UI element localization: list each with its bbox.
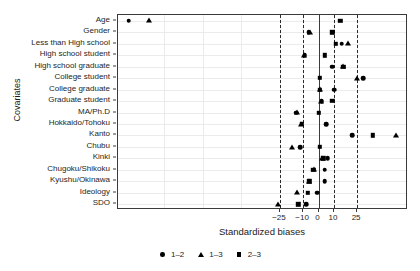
y-axis-tick-mark [113, 191, 116, 192]
legend: 1–21–32–3 [0, 250, 420, 259]
data-point-square [311, 168, 315, 172]
legend-item: 1–2 [159, 250, 184, 259]
data-point-triangle [307, 29, 313, 34]
legend-item: 2–3 [236, 250, 261, 259]
square-glyph [237, 252, 241, 256]
x-axis-tick-label: 25 [352, 213, 361, 222]
standardized-biases-chart: Covariates AgeGenderLess than High schoo… [0, 0, 420, 271]
gridline [118, 55, 406, 56]
y-axis-tick-mark [113, 77, 116, 78]
y-axis-tick-mark [113, 145, 116, 146]
legend-label: 1–2 [171, 250, 184, 259]
data-point-square [370, 133, 374, 137]
data-point-triangle [354, 75, 360, 80]
gridline [118, 67, 406, 68]
data-point-square [296, 202, 300, 206]
y-axis-tick-mark [113, 19, 116, 20]
data-point-square [306, 191, 310, 195]
gridline [118, 101, 406, 102]
legend-item: 1–3 [197, 250, 222, 259]
gridline [118, 32, 406, 33]
circle-glyph [160, 252, 165, 257]
data-point-square [333, 41, 337, 45]
data-point-triangle [294, 110, 300, 115]
data-point-circle [332, 87, 337, 92]
data-point-square [341, 64, 345, 68]
data-point-circle [350, 133, 355, 138]
gridline [203, 15, 204, 208]
plot-panel [117, 14, 407, 209]
y-axis-tick-mark [113, 134, 116, 135]
y-axis-tick-mark [113, 111, 116, 112]
reference-line-dashed [280, 15, 281, 208]
gridline [118, 181, 406, 182]
data-point-circle [325, 156, 330, 161]
data-point-triangle [275, 201, 281, 206]
x-axis-tick-mark [333, 209, 334, 212]
gridline [118, 44, 406, 45]
y-axis-tick-mark [113, 100, 116, 101]
y-axis-tick-mark [113, 31, 116, 32]
y-axis-tick-marks [0, 14, 120, 209]
data-point-circle [361, 76, 366, 81]
x-axis-tick-label: −25 [272, 213, 286, 222]
reference-line-dashed [303, 15, 304, 208]
data-point-circle [127, 18, 132, 23]
gridline [118, 21, 406, 22]
y-axis-tick-mark [113, 65, 116, 66]
y-axis-tick-mark [113, 122, 116, 123]
y-axis-tick-mark [113, 88, 116, 89]
x-axis-tick-mark [279, 209, 280, 212]
gridline [118, 147, 406, 148]
y-axis-tick-mark [113, 54, 116, 55]
gridline [118, 193, 406, 194]
x-axis-tick-mark [318, 209, 319, 212]
y-axis-tick-mark [113, 180, 116, 181]
data-point-triangle [146, 18, 152, 23]
data-point-triangle [294, 190, 300, 195]
triangle-glyph [198, 252, 204, 257]
x-axis-tick-label: 10 [329, 213, 338, 222]
gridline [118, 124, 406, 125]
gridline [241, 15, 242, 208]
data-point-circle [324, 122, 329, 127]
x-axis-tick-mark [302, 209, 303, 212]
legend-label: 2–3 [248, 250, 261, 259]
data-point-square [318, 145, 322, 149]
x-axis-tick-mark [356, 209, 357, 212]
data-point-circle [339, 41, 344, 46]
x-axis-tick-label: −10 [295, 213, 309, 222]
legend-label: 1–3 [209, 250, 222, 259]
gridline [118, 170, 406, 171]
data-point-triangle [318, 98, 324, 103]
y-axis-tick-mark [113, 157, 116, 158]
data-point-square [318, 76, 322, 80]
legend-circle-icon [159, 251, 166, 258]
data-point-circle [330, 64, 335, 69]
data-point-square [330, 99, 334, 103]
data-point-triangle [301, 52, 307, 57]
data-point-square [299, 122, 303, 126]
data-point-triangle [345, 41, 351, 46]
x-axis-tick-label: 0 [315, 213, 319, 222]
gridline [118, 204, 406, 205]
data-point-square [330, 30, 334, 34]
data-point-square [321, 156, 325, 160]
data-point-square [338, 19, 342, 23]
data-point-circle [322, 179, 327, 184]
data-point-square [322, 53, 326, 57]
legend-square-icon [236, 251, 243, 258]
gridline [118, 90, 406, 91]
data-point-triangle [393, 133, 399, 138]
data-point-square [307, 179, 311, 183]
gridline [118, 113, 406, 114]
y-axis-tick-mark [113, 203, 116, 204]
gridline [118, 135, 406, 136]
gridline [164, 15, 165, 208]
data-point-circle [298, 145, 303, 150]
data-point-square [318, 87, 322, 91]
data-point-circle [322, 168, 327, 173]
data-point-circle [304, 202, 309, 207]
data-point-circle [315, 190, 320, 195]
x-axis-title: Standardized biases [117, 226, 407, 237]
